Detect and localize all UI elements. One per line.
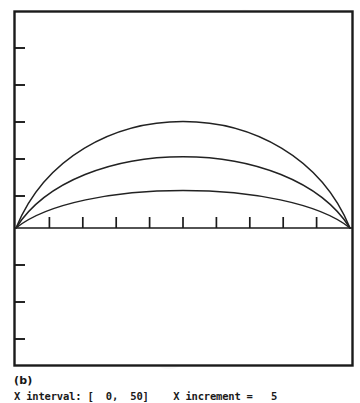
frame-border	[15, 12, 353, 366]
panel-label: (b)	[14, 374, 33, 387]
figure-caption: X interval: [ 0, 50] X increment = 5	[14, 390, 360, 403]
caption-block: (b) X interval: [ 0, 50] X increment = 5	[0, 374, 360, 403]
plot-frame	[15, 12, 353, 366]
plot-figure	[0, 0, 360, 372]
